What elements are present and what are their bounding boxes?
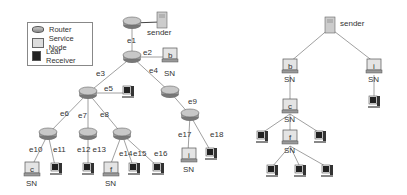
sn-label: SN [26, 179, 37, 188]
sn-label: SN [164, 69, 175, 78]
sender-server-icon [325, 17, 335, 33]
edge-label: e10 [29, 145, 43, 154]
edge-label: e1 [127, 36, 136, 45]
sn-id: c [288, 102, 292, 111]
leaf-receiver-icon [152, 163, 164, 175]
edge-label: e7 [78, 111, 87, 120]
right-tree-links [262, 28, 374, 167]
sn-label: SN [284, 75, 295, 84]
router-icon [161, 86, 179, 98]
sn-id: c [30, 165, 34, 174]
sn-label: SN [284, 115, 295, 124]
edge-label: e14 [119, 149, 133, 158]
leaf-receiver-icon [294, 165, 306, 177]
leaf-receiver-icon [321, 165, 333, 177]
edge-label: e3 [96, 69, 105, 78]
router-icon [79, 128, 97, 140]
sender-label: sender [340, 19, 365, 28]
sn-id: b [288, 62, 293, 71]
sn-id: i [188, 151, 190, 160]
sn-label: SN [368, 75, 379, 84]
sn-label: SN [105, 179, 116, 188]
edge-label: e9 [188, 97, 197, 106]
edge-label: e17 [178, 130, 192, 139]
sender-label: sender [147, 28, 172, 37]
router-icon [79, 87, 97, 99]
sn-id: b [168, 51, 173, 60]
network-diagram: sender e1 e2 b SN e3 e4 e5 e9 e6 e7 e8 e… [0, 0, 407, 195]
leaf-receiver-icon [368, 96, 380, 108]
edge-label: e11 [53, 145, 66, 154]
edge-label: e8 [100, 110, 109, 119]
leaf-receiver-icon [122, 86, 134, 98]
edge-label: e2 [143, 48, 152, 57]
leaf-receiver-icon [50, 163, 62, 175]
edge-label: e18 [210, 130, 224, 139]
edge-label: e5 [104, 84, 113, 93]
sender-server-icon [157, 12, 167, 28]
edge-label: e12 e13 [77, 145, 106, 154]
edge-label: e15 [133, 149, 147, 158]
sn-label: SN [183, 165, 194, 174]
sn-id: i [373, 62, 375, 71]
router-icon [113, 128, 131, 140]
leaf-receiver-icon [82, 163, 94, 175]
router-icon [181, 109, 199, 121]
edge-label: e16 [154, 149, 168, 158]
router-icon [39, 128, 57, 140]
router-icon [123, 17, 141, 29]
leaf-receiver-icon [256, 131, 268, 143]
leaf-receiver-icon [266, 165, 278, 177]
leaf-receiver-icon [205, 148, 217, 160]
edge-label: e6 [60, 109, 69, 118]
edge-label: e4 [149, 66, 158, 75]
sn-label: SN [284, 146, 295, 155]
leaf-receiver-icon [314, 131, 326, 143]
leaf-receiver-icon [128, 163, 140, 175]
router-icon [123, 51, 141, 63]
